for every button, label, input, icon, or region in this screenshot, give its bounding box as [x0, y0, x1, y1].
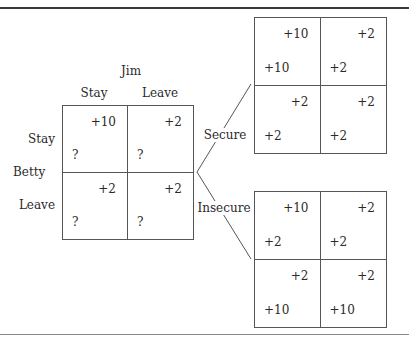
- secure-cell-stay-stay: +10 +10: [255, 18, 321, 86]
- column-payoff: +2: [357, 27, 375, 41]
- base-cell-leave-leave: +2 ?: [128, 173, 193, 240]
- row-payoff: +2: [264, 129, 282, 143]
- bottom-rule: [0, 334, 409, 335]
- row-payoff: +2: [330, 235, 348, 249]
- insecure-cell-leave-stay: +2 +10: [255, 260, 321, 328]
- column-payoff: +2: [164, 182, 182, 196]
- row-payoff: +10: [330, 303, 355, 317]
- row-payoff: ?: [72, 148, 78, 162]
- column-payoff: +2: [291, 269, 309, 283]
- branch-line-insecure: [197, 172, 251, 259]
- column-payoff: +10: [283, 27, 308, 41]
- column-payoff: +2: [357, 269, 375, 283]
- row-strategy-leave: Leave: [19, 198, 55, 212]
- column-strategy-stay: Stay: [81, 86, 108, 100]
- column-payoff: +2: [357, 201, 375, 215]
- row-payoff: +10: [264, 303, 289, 317]
- row-strategy-stay: Stay: [28, 132, 55, 146]
- column-player-label: Jim: [121, 64, 141, 78]
- insecure-cell-stay-leave: +2 +2: [321, 192, 387, 260]
- secure-cell-leave-stay: +2 +2: [255, 86, 321, 154]
- column-payoff: +2: [291, 95, 309, 109]
- row-payoff: +2: [264, 235, 282, 249]
- base-cell-leave-stay: +2 ?: [63, 173, 128, 240]
- insecure-cell-stay-stay: +10 +2: [255, 192, 321, 260]
- base-cell-stay-stay: +10 ?: [63, 106, 128, 173]
- column-payoff: +10: [283, 201, 308, 215]
- insecure-matrix: +10 +2 +2 +2 +2 +10 +2 +10: [254, 191, 387, 328]
- branch-label-secure: Secure: [203, 128, 248, 142]
- secure-cell-leave-leave: +2 +2: [321, 86, 387, 154]
- branch-label-insecure: Insecure: [196, 201, 251, 215]
- insecure-cell-leave-leave: +2 +10: [321, 260, 387, 328]
- row-payoff: ?: [72, 215, 78, 229]
- row-payoff: +2: [330, 129, 348, 143]
- secure-cell-stay-leave: +2 +2: [321, 18, 387, 86]
- row-payoff: +2: [330, 61, 348, 75]
- row-payoff: ?: [137, 215, 143, 229]
- base-game-matrix: +10 ? +2 ? +2 ? +2 ?: [62, 105, 194, 240]
- secure-matrix: +10 +10 +2 +2 +2 +2 +2 +2: [254, 17, 387, 154]
- row-payoff: +10: [264, 61, 289, 75]
- column-payoff: +10: [91, 115, 116, 129]
- base-cell-stay-leave: +2 ?: [128, 106, 193, 173]
- row-player-label: Betty: [13, 165, 45, 179]
- column-payoff: +2: [357, 95, 375, 109]
- row-payoff: ?: [137, 148, 143, 162]
- column-strategy-leave: Leave: [142, 86, 178, 100]
- column-payoff: +2: [98, 182, 116, 196]
- column-payoff: +2: [164, 115, 182, 129]
